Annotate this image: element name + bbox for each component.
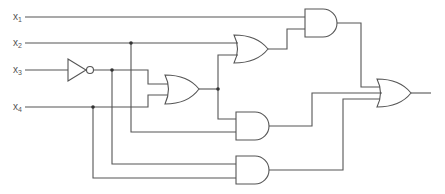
- or-gate-1: [165, 75, 199, 104]
- wire-and1-out: [337, 23, 380, 87]
- not-bubble: [87, 67, 94, 74]
- junction-dot: [110, 68, 114, 72]
- or-gate-output: [377, 79, 411, 107]
- and-gate-2: [236, 112, 269, 140]
- wire-or2-out: [268, 29, 305, 49]
- wire-x4: [25, 95, 168, 107]
- wire-x4-branch: [93, 107, 236, 178]
- and-gate-1: [305, 9, 337, 37]
- logic-circuit-diagram: x1 x2 x3 x4: [0, 0, 445, 194]
- circuit-svg: [0, 0, 445, 194]
- junction-dot: [216, 87, 220, 91]
- junction-dot: [129, 41, 133, 45]
- and-gate-3: [236, 156, 269, 184]
- wire-or1-down: [218, 89, 236, 119]
- or-gate-2: [234, 35, 268, 63]
- junction-dot: [91, 105, 95, 109]
- not-gate: [68, 59, 86, 81]
- wire-and3-out: [269, 99, 380, 170]
- wire-and2-out: [269, 93, 382, 126]
